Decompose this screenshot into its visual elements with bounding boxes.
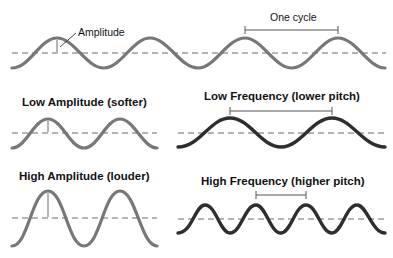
high-amplitude-wave-group [12,191,157,246]
low-frequency-wave-group [178,107,386,147]
amplitude-label: Amplitude [78,26,125,38]
panel-title-high-amplitude: High Amplitude (louder) [19,170,150,182]
panel-title-low-frequency: Low Frequency (lower pitch) [204,90,360,102]
panel-title-low-amplitude: Low Amplitude (softer) [22,96,147,108]
high-frequency-wave-group [178,191,386,233]
sound-wave-diagram [0,0,393,258]
panel-title-high-frequency: High Frequency (higher pitch) [201,175,365,187]
reference-wave-group [12,26,386,68]
low-amplitude-wave-group [12,119,157,148]
one-cycle-label: One cycle [270,11,317,23]
